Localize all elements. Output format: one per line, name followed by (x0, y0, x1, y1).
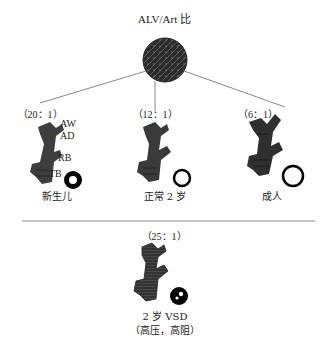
caption-vsd: 2 岁 VSD (125, 308, 205, 323)
caption-adult: 成人 (232, 188, 312, 203)
vessel-2y-icon (174, 170, 190, 186)
airway-tree-vsd (134, 243, 168, 301)
ratio-adult: （6：1） (228, 106, 288, 121)
diagram-title: ALV/Art 比 (0, 10, 329, 26)
label-rb: RB (58, 152, 71, 163)
vessel-newborn-icon (67, 174, 80, 187)
vessel-vsd-icon (170, 287, 188, 305)
subcaption-vsd: （高压，高阻） (115, 322, 215, 337)
airway-tree-2y (137, 122, 171, 182)
airway-tree-adult (247, 114, 283, 176)
ratio-2y: （12：1） (125, 106, 185, 121)
caption-2y: 正常 2 岁 (125, 188, 205, 203)
alveolus-icon (143, 38, 187, 82)
vessel-adult-icon (283, 166, 303, 186)
ratio-vsd: （25：1） (134, 228, 194, 243)
caption-newborn: 新生儿 (17, 188, 97, 203)
label-ad: AD (60, 130, 74, 141)
label-tb: TB (49, 168, 62, 179)
label-aw: AW (60, 118, 76, 129)
